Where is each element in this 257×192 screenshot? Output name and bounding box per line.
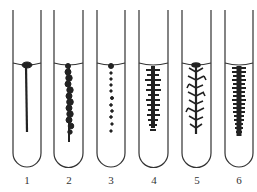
tube-3-outline [97, 10, 125, 167]
growth-beaded-dense [65, 64, 74, 143]
tube-label-1: 1 [13, 174, 41, 186]
tube-label-6: 6 [225, 174, 253, 186]
growth-arborescent [186, 63, 206, 134]
tube-label-5: 5 [183, 174, 211, 186]
tube-label-4: 4 [140, 174, 168, 186]
growth-villous [145, 66, 161, 130]
tube-label-2: 2 [55, 174, 83, 186]
growth-filiform [22, 62, 32, 132]
growth-dense-papillate [232, 66, 246, 136]
growth-beaded-dotted [109, 64, 114, 133]
test-tubes-diagram [0, 0, 257, 192]
tube-label-3: 3 [97, 174, 125, 186]
